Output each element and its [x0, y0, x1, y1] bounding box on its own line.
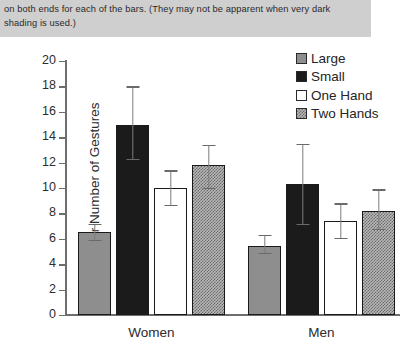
error-bar-cap-lower [164, 205, 177, 206]
error-bar-cap-lower [334, 238, 347, 239]
error-bar-cap-lower [372, 229, 385, 230]
error-bar-cap-upper [126, 86, 139, 87]
y-axis-tick-label: 12 [16, 155, 56, 169]
y-axis-tick [59, 112, 65, 113]
legend-swatch-icon [296, 71, 307, 82]
bar-group-item [248, 61, 281, 315]
error-bar-cap-upper [372, 189, 385, 190]
x-axis-group-label: Men [308, 325, 334, 340]
error-bar-stem [94, 224, 95, 241]
y-axis-tick [59, 137, 65, 138]
error-bar-cap-upper [258, 235, 271, 236]
error-bar-stem [208, 145, 209, 188]
bar [78, 232, 111, 315]
y-axis-tick-label: 20 [16, 53, 56, 67]
y-axis-tick [59, 264, 65, 265]
legend-item[interactable]: Two Hands [296, 105, 404, 124]
error-bar-cap-lower [296, 224, 309, 225]
y-axis-tick-label: 16 [16, 104, 56, 118]
bar-group-item [192, 61, 225, 315]
y-axis-tick-label: 10 [16, 180, 56, 194]
error-bar-stem [302, 144, 303, 224]
y-axis-tick [59, 213, 65, 214]
y-axis-tick-label: 2 [16, 282, 56, 296]
chart-legend: LargeSmallOne HandTwo Hands [296, 49, 404, 123]
y-axis-tick-label: 8 [16, 205, 56, 219]
legend-item[interactable]: One Hand [296, 86, 404, 105]
legend-label: Large [311, 51, 346, 66]
legend-label: One Hand [311, 88, 373, 103]
banner-text: on both ends for each of the bars. (They… [4, 3, 363, 30]
y-axis-tick-label: 0 [16, 307, 56, 321]
legend-item[interactable]: Large [296, 49, 404, 68]
bar-group-item [116, 61, 149, 315]
bar-chart: Mear Number of Gestures 0246810121416182… [0, 44, 408, 352]
bar [154, 188, 187, 315]
error-bar-stem [170, 170, 171, 204]
error-bar-cap-lower [202, 188, 215, 189]
y-axis-tick [59, 239, 65, 240]
bar [248, 246, 281, 315]
error-bar-cap-lower [88, 240, 101, 241]
error-bar-cap-upper [164, 170, 177, 171]
header-banner: on both ends for each of the bars. (They… [0, 0, 371, 37]
legend-item[interactable]: Small [296, 68, 404, 87]
legend-label: Two Hands [311, 106, 379, 121]
legend-swatch-icon [296, 108, 307, 119]
error-bar-stem [132, 86, 133, 158]
y-axis-tick [59, 315, 65, 316]
y-axis-tick-label: 14 [16, 129, 56, 143]
error-bar-cap-upper [88, 224, 101, 225]
error-bar-stem [378, 189, 379, 228]
error-bar-cap-upper [202, 145, 215, 146]
legend-swatch-icon [296, 53, 307, 64]
legend-label: Small [311, 69, 345, 84]
y-axis-tick [59, 188, 65, 189]
legend-swatch-icon [296, 90, 307, 101]
x-axis-group-label: Women [128, 325, 174, 340]
y-axis-tick [59, 163, 65, 164]
bar-group-item [78, 61, 111, 315]
error-bar-cap-upper [296, 144, 309, 145]
y-axis-tick [59, 290, 65, 291]
error-bar-stem [340, 203, 341, 237]
error-bar-cap-lower [258, 253, 271, 254]
y-axis-tick-label: 18 [16, 78, 56, 92]
y-axis-tick [59, 61, 65, 62]
y-axis-tick-label: 4 [16, 256, 56, 270]
y-axis-tick-label: 6 [16, 231, 56, 245]
y-axis-tick [59, 86, 65, 87]
error-bar-stem [264, 235, 265, 253]
error-bar-cap-upper [334, 203, 347, 204]
bar-group-item [154, 61, 187, 315]
error-bar-cap-lower [126, 159, 139, 160]
